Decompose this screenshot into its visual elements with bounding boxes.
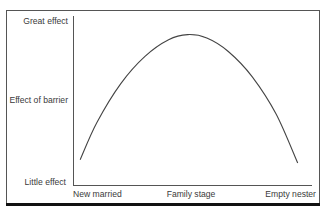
x-label-empty-nester: Empty nester (265, 189, 316, 199)
data-curve (80, 35, 298, 163)
y-label-little-effect: Little effect (25, 177, 67, 187)
chart: Great effect Effect of barrier Little ef… (0, 0, 326, 212)
y-label-effect-of-barrier: Effect of barrier (9, 95, 68, 105)
x-label-family-stage: Family stage (167, 189, 216, 199)
y-label-great-effect: Great effect (23, 16, 68, 26)
x-label-new-married: New married (73, 189, 122, 199)
